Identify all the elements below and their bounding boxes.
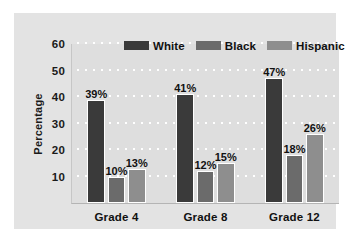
bar-value-label: 41% [174,82,196,94]
y-axis-tick-label: 10 [52,171,65,183]
legend-swatch-hispanic [267,41,292,50]
bar-value-label: 10% [105,165,127,177]
bar-white-grade-4[interactable]: 39% [87,100,105,203]
bar-groups: 39%10%13%Grade 441%12%15%Grade 847%18%26… [72,44,339,203]
bar-group: 47%18%26%Grade 12 [250,44,339,203]
legend-item-hispanic[interactable]: Hispanic [267,40,345,52]
legend-item-black[interactable]: Black [196,40,256,52]
bar-black-grade-8[interactable]: 12% [197,171,215,203]
bar-hispanic-grade-12[interactable]: 26% [306,134,324,203]
legend-label-hispanic: Hispanic [296,40,345,52]
bar-black-grade-4[interactable]: 10% [108,177,126,204]
bar-hispanic-grade-4[interactable]: 13% [128,169,146,203]
bar-group: 39%10%13%Grade 4 [72,44,161,203]
chart-legend: White Black Hispanic [124,37,345,54]
y-axis-tick-label: 40 [52,91,65,103]
legend-label-black: Black [225,40,256,52]
bar-value-label: 12% [194,159,216,171]
bar-black-grade-12[interactable]: 18% [286,155,304,203]
legend-label-white: White [153,40,185,52]
y-axis-tick-label: 50 [52,65,65,77]
y-axis-title: Percentage [32,93,44,154]
legend-swatch-black [196,41,221,50]
bar-white-grade-12[interactable]: 47% [265,78,283,203]
x-axis-category-label: Grade 12 [269,211,320,223]
y-axis-tick-label: 30 [52,118,65,130]
legend-swatch-white [124,41,149,50]
chart-panel: Percentage White Black Hispanic 10203040… [14,13,336,229]
bar-value-label: 18% [283,143,305,155]
bar-value-label: 39% [85,88,107,100]
x-axis-category-label: Grade 8 [183,211,227,223]
bar-value-label: 26% [304,122,326,134]
bar-hispanic-grade-8[interactable]: 15% [217,163,235,203]
bar-value-label: 15% [215,151,237,163]
bar-group: 41%12%15%Grade 8 [161,44,250,203]
bar-white-grade-8[interactable]: 41% [176,94,194,203]
bar-chart-figure: Percentage White Black Hispanic 10203040… [0,0,351,242]
plot-area: 102030405060 39%10%13%Grade 441%12%15%Gr… [71,44,339,204]
y-axis-tick-label: 20 [52,144,65,156]
bar-value-label: 47% [263,66,285,78]
legend-item-white[interactable]: White [124,40,185,52]
y-axis-tick-label: 60 [52,38,65,50]
bar-value-label: 13% [126,157,148,169]
x-axis-category-label: Grade 4 [94,211,138,223]
